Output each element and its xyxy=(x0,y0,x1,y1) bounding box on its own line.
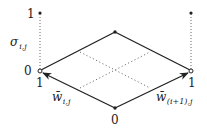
right-top-point xyxy=(189,11,192,14)
left-top-label: 1 xyxy=(27,7,35,21)
left-zero-label: 0 xyxy=(24,64,32,78)
left-vertex xyxy=(38,69,42,73)
left-top-point xyxy=(38,11,41,14)
left-vertex-label: 1 xyxy=(36,76,44,90)
bottom-vertex xyxy=(113,106,116,109)
upper-right-edge xyxy=(115,32,190,70)
right-edge-label: w̄(i+1),j xyxy=(156,90,193,106)
bottom-vertex-label: 0 xyxy=(111,113,119,127)
diamond-diagram: 1 0 σi,j 1 1 0 w̄i,j w̄(i+1),j xyxy=(0,0,207,134)
top-vertex xyxy=(113,30,116,33)
upper-left-edge xyxy=(41,32,115,70)
left-edge-label: w̄i,j xyxy=(52,90,71,106)
right-vertex xyxy=(189,69,193,73)
sigma-label: σi,j xyxy=(10,35,27,51)
right-vertex-label: 1 xyxy=(188,76,196,90)
